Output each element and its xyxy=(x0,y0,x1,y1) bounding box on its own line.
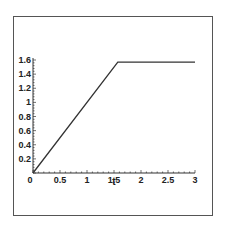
ticks xyxy=(33,60,195,173)
x-tick-label: 0.5 xyxy=(54,175,67,185)
y-tick-label: 1.6 xyxy=(18,55,31,65)
y-tick-label: 0.2 xyxy=(18,154,31,164)
y-tick-label: 0.6 xyxy=(18,126,31,136)
y-tick-label: 0.8 xyxy=(18,112,31,122)
y-tick-label: 0.4 xyxy=(18,140,31,150)
y-tick-label: 1.4 xyxy=(18,69,31,79)
y-tick-label: 1.2 xyxy=(18,83,31,93)
x-tick-label: 0 xyxy=(27,175,32,185)
x-tick-label: 2.5 xyxy=(162,175,175,185)
x-tick-label: 1 xyxy=(84,175,89,185)
data-line xyxy=(33,62,195,173)
x-tick-label: 3 xyxy=(192,175,197,185)
line-chart: 00.511.522.530.20.40.60.811.21.41.6 t xyxy=(0,0,228,228)
y-tick-label: 1 xyxy=(26,97,31,107)
axes xyxy=(33,58,195,173)
x-tick-label: 2 xyxy=(138,175,143,185)
